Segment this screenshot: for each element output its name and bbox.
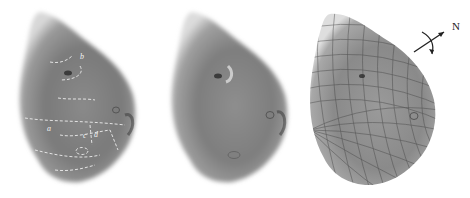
north-label: N bbox=[452, 20, 460, 32]
panel-annotated-features: a b c d bbox=[0, 0, 160, 198]
annotation-label-d: d bbox=[94, 130, 98, 139]
annotation-label-b: b bbox=[80, 52, 84, 61]
north-arrow: N bbox=[408, 22, 468, 72]
annotation-label-a: a bbox=[47, 124, 51, 133]
panel-plain-image bbox=[150, 0, 310, 198]
asteroid-image-plain bbox=[150, 0, 310, 198]
annotation-label-c: c bbox=[83, 131, 87, 140]
asteroid-image-annotated bbox=[0, 0, 160, 198]
